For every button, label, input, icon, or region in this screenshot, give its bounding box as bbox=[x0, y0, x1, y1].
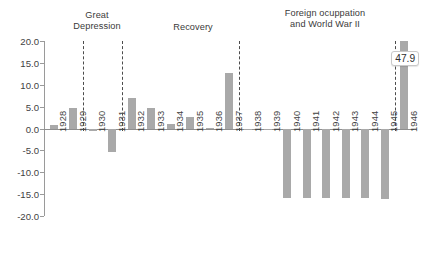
y-tick-label: 10.0 bbox=[20, 79, 39, 90]
y-tick-mark bbox=[40, 85, 44, 86]
annotation-great-depression: Great Depression bbox=[44, 10, 150, 33]
bar-1929 bbox=[69, 108, 77, 129]
x-axis-label-1928: 1928 bbox=[58, 110, 68, 131]
y-tick-mark bbox=[40, 63, 44, 64]
plot-area: 20.0 15.0 10.0 5.0 0.0 -5.0 -10.0 -15.0 bbox=[44, 41, 414, 216]
x-axis-label-1942: 1942 bbox=[331, 110, 341, 131]
bar-1940 bbox=[283, 129, 291, 198]
divider-1937-1938 bbox=[239, 41, 240, 131]
y-tick-mark bbox=[40, 150, 44, 151]
data-label-1946: 47.9 bbox=[391, 51, 419, 66]
x-axis-label-1934: 1934 bbox=[175, 110, 185, 131]
x-axis-label-1935: 1935 bbox=[195, 110, 205, 131]
bar-1933 bbox=[147, 108, 155, 128]
bar-1937 bbox=[225, 73, 233, 129]
y-tick-mark bbox=[40, 194, 44, 195]
x-axis-label-1936: 1936 bbox=[214, 110, 224, 131]
bar-1945 bbox=[381, 129, 389, 199]
bar-1938 bbox=[244, 129, 252, 130]
annotation-foreign-occupation-wwii: Foreign ocuppation and World War II bbox=[240, 8, 410, 31]
x-axis-label-1939: 1939 bbox=[272, 110, 282, 131]
bar-1931 bbox=[108, 129, 116, 152]
bar-1944 bbox=[361, 129, 369, 199]
divider-1931-1932 bbox=[122, 41, 123, 131]
y-tick-label: -15.0 bbox=[17, 189, 39, 200]
y-tick-label: 20.0 bbox=[20, 36, 39, 47]
bar-1939 bbox=[264, 129, 272, 130]
bar-chart: Great Depression Recovery Foreign ocuppa… bbox=[0, 0, 421, 265]
bar-1928 bbox=[50, 125, 58, 128]
y-tick-label: -20.0 bbox=[17, 211, 39, 222]
x-axis-label-1938: 1938 bbox=[253, 110, 263, 131]
bar-1941 bbox=[303, 129, 311, 198]
bar-1930 bbox=[89, 129, 97, 131]
x-axis-label-1930: 1930 bbox=[97, 110, 107, 131]
y-tick-mark bbox=[40, 41, 44, 42]
annotation-recovery: Recovery bbox=[140, 22, 246, 33]
y-tick-mark bbox=[40, 107, 44, 108]
x-axis-label-1944: 1944 bbox=[370, 110, 380, 131]
y-tick-mark bbox=[40, 216, 44, 217]
bar-1942 bbox=[322, 129, 330, 198]
bar-1934 bbox=[167, 124, 175, 128]
y-tick-label: -10.0 bbox=[17, 167, 39, 178]
x-axis-label-1946: 1946 bbox=[409, 110, 419, 131]
bar-1935 bbox=[186, 117, 194, 128]
x-axis-label-1932: 1932 bbox=[136, 110, 146, 131]
x-axis-label-1940: 1940 bbox=[292, 110, 302, 131]
y-tick-label: 15.0 bbox=[20, 57, 39, 68]
x-axis-label-1943: 1943 bbox=[350, 110, 360, 131]
x-axis-label-1941: 1941 bbox=[311, 110, 321, 131]
y-tick-label: 5.0 bbox=[26, 101, 39, 112]
bar-1943 bbox=[342, 129, 350, 198]
y-tick-label: -5.0 bbox=[22, 145, 39, 156]
divider-1929-1930 bbox=[83, 41, 84, 131]
x-axis-label-1933: 1933 bbox=[156, 110, 166, 131]
y-tick-label: 0.0 bbox=[26, 123, 39, 134]
y-tick-mark bbox=[40, 172, 44, 173]
bar-1932 bbox=[128, 98, 136, 129]
